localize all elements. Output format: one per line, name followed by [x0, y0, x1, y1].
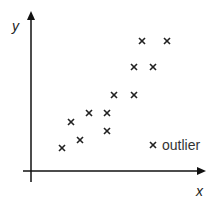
y-axis-label: y: [12, 18, 19, 34]
scatter-plot: [0, 0, 219, 206]
y-axis-arrow: [27, 11, 35, 20]
x-axis-arrow: [197, 167, 206, 175]
outlier-label: outlier: [162, 137, 200, 153]
data-points: [59, 38, 170, 151]
outlier-point: [150, 142, 156, 148]
x-axis-label: x: [196, 183, 203, 199]
